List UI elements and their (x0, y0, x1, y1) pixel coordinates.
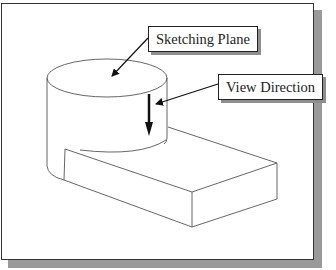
view-direction-label: View Direction (218, 74, 323, 100)
view-direction-arrowhead-icon (145, 122, 153, 136)
sketching-plane-label: Sketching Plane (148, 26, 258, 52)
block-outline (64, 127, 277, 227)
sketching-plane-leader-arrow (112, 38, 148, 76)
view-direction-leader-arrow (156, 84, 218, 104)
